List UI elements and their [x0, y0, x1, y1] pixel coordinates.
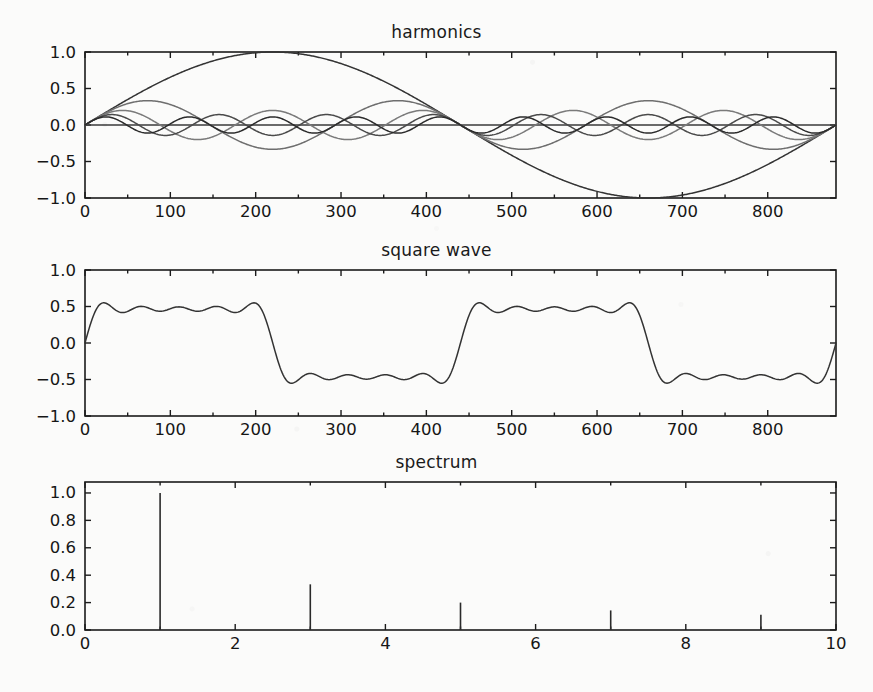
x-tick-label: 400	[411, 420, 443, 439]
x-tick-label: 200	[240, 420, 272, 439]
spectrum-title: spectrum	[0, 452, 873, 472]
x-tick-label: 500	[496, 202, 528, 221]
x-tick-label: 200	[240, 202, 272, 221]
x-tick-label: 300	[325, 420, 357, 439]
x-tick-label: 600	[581, 202, 613, 221]
y-tick-label: −1.0	[36, 189, 76, 208]
y-tick-label: 1.0	[50, 261, 76, 280]
harmonics-title: harmonics	[0, 22, 873, 42]
x-tick-label: 100	[155, 202, 187, 221]
square-wave-axes: 0100200300400500600700800−1.0−0.50.00.51…	[0, 240, 873, 448]
x-tick-label: 0	[80, 202, 91, 221]
y-tick-label: 0.2	[50, 593, 76, 612]
y-tick-label: −0.5	[36, 152, 76, 171]
x-tick-label: 500	[496, 420, 528, 439]
y-tick-label: 0.5	[50, 297, 76, 316]
harmonics-axes: 0100200300400500600700800−1.0−0.50.00.51…	[0, 22, 873, 230]
x-tick-label: 10	[826, 634, 847, 653]
x-tick-label: 2	[230, 634, 241, 653]
x-tick-label: 700	[667, 420, 699, 439]
subplot-harmonics: harmonics 0100200300400500600700800−1.0−…	[0, 22, 873, 230]
x-tick-label: 100	[155, 420, 187, 439]
y-tick-label: 0.5	[50, 79, 76, 98]
x-tick-label: 6	[530, 634, 541, 653]
square-wave-curve	[85, 303, 836, 383]
x-tick-label: 4	[380, 634, 391, 653]
y-tick-label: 0.6	[50, 538, 76, 557]
subplot-square-wave: square wave 0100200300400500600700800−1.…	[0, 240, 873, 448]
y-tick-label: 0.0	[50, 334, 76, 353]
y-tick-label: 0.8	[50, 511, 76, 530]
x-tick-label: 300	[325, 202, 357, 221]
x-tick-label: 700	[667, 202, 699, 221]
y-tick-label: −0.5	[36, 370, 76, 389]
x-tick-label: 8	[681, 634, 692, 653]
x-tick-label: 400	[411, 202, 443, 221]
x-tick-label: 800	[752, 420, 784, 439]
y-tick-label: 1.0	[50, 43, 76, 62]
x-tick-label: 800	[752, 202, 784, 221]
y-tick-label: 0.0	[50, 116, 76, 135]
matplotlib-figure: harmonics 0100200300400500600700800−1.0−…	[0, 0, 873, 692]
y-tick-label: −1.0	[36, 407, 76, 426]
subplot-spectrum: spectrum 02468100.00.20.40.60.81.0	[0, 452, 873, 682]
x-tick-label: 0	[80, 634, 91, 653]
y-tick-label: 0.4	[50, 566, 76, 585]
y-tick-label: 0.0	[50, 621, 76, 640]
x-tick-label: 600	[581, 420, 613, 439]
x-tick-label: 0	[80, 420, 91, 439]
square-wave-title: square wave	[0, 240, 873, 260]
spectrum-axes: 02468100.00.20.40.60.81.0	[0, 452, 873, 682]
y-tick-label: 1.0	[50, 483, 76, 502]
